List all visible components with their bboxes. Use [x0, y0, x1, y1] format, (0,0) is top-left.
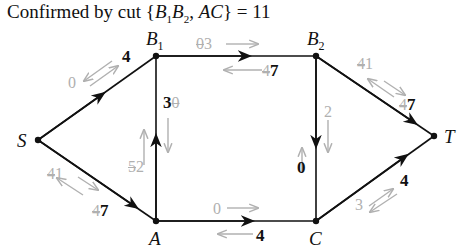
- node-b2-label: B2: [307, 29, 325, 52]
- node-s-dot: [35, 137, 41, 143]
- edge-a-c-forward: 0: [213, 201, 221, 217]
- new-value: 2: [136, 158, 144, 175]
- new-value: 1: [365, 55, 373, 72]
- node-t-label: T: [444, 127, 455, 146]
- edge-a-b1-forward: 52: [128, 159, 144, 175]
- edge-a-b1-back: 30: [163, 94, 180, 111]
- edge-s-a-back: 47: [92, 202, 109, 219]
- node-a-dot: [153, 218, 159, 224]
- edge-b2-t-back: 47: [399, 96, 416, 113]
- node-b1-dot: [153, 53, 159, 59]
- new-value: 3: [204, 35, 212, 52]
- flow-value: 3: [163, 93, 172, 112]
- edge-b1-b2-forward: 03: [196, 36, 212, 52]
- node-a-label: A: [149, 229, 161, 248]
- node-b1-sub: 1: [158, 39, 164, 53]
- node-s-label: S: [17, 131, 27, 150]
- node-c-label: C: [309, 229, 322, 248]
- flow-value: 7: [100, 201, 109, 220]
- edge-s-a-forward: 41: [47, 166, 63, 182]
- edge-b2-c-forward: 2: [324, 104, 332, 120]
- edge-s-b1-back: 0: [68, 75, 76, 91]
- edge-s-b1-flow: 4: [122, 48, 131, 65]
- old-value: 4: [92, 202, 100, 219]
- node-b1-label: B1: [146, 29, 164, 52]
- node-c-dot: [313, 218, 319, 224]
- old-value: 4: [399, 96, 407, 113]
- node-t-dot: [431, 133, 437, 139]
- edge-c-t-back: 3: [355, 197, 363, 213]
- new-value: 1: [55, 165, 63, 182]
- old-value: 4: [262, 62, 270, 79]
- node-b1-letter: B: [146, 28, 158, 49]
- flow-network: [0, 0, 470, 248]
- old-value: 0: [172, 94, 180, 111]
- edge-c-t-flow: 4: [400, 172, 409, 189]
- edge-b1-b2-back: 47: [262, 62, 279, 79]
- old-value: 0: [196, 35, 204, 52]
- edge-a-c-flow: 4: [256, 227, 265, 244]
- node-b2-letter: B: [307, 28, 319, 49]
- node-b2-sub: 2: [319, 39, 325, 53]
- edge-b2-c-flow: 0: [297, 159, 306, 176]
- flow-value: 7: [270, 61, 279, 80]
- edge-b2-t-forward: 41: [357, 56, 373, 72]
- old-value: 4: [357, 55, 365, 72]
- node-b2-dot: [313, 53, 319, 59]
- flow-value: 7: [407, 95, 416, 114]
- old-value: 5: [128, 158, 136, 175]
- old-value: 4: [47, 165, 55, 182]
